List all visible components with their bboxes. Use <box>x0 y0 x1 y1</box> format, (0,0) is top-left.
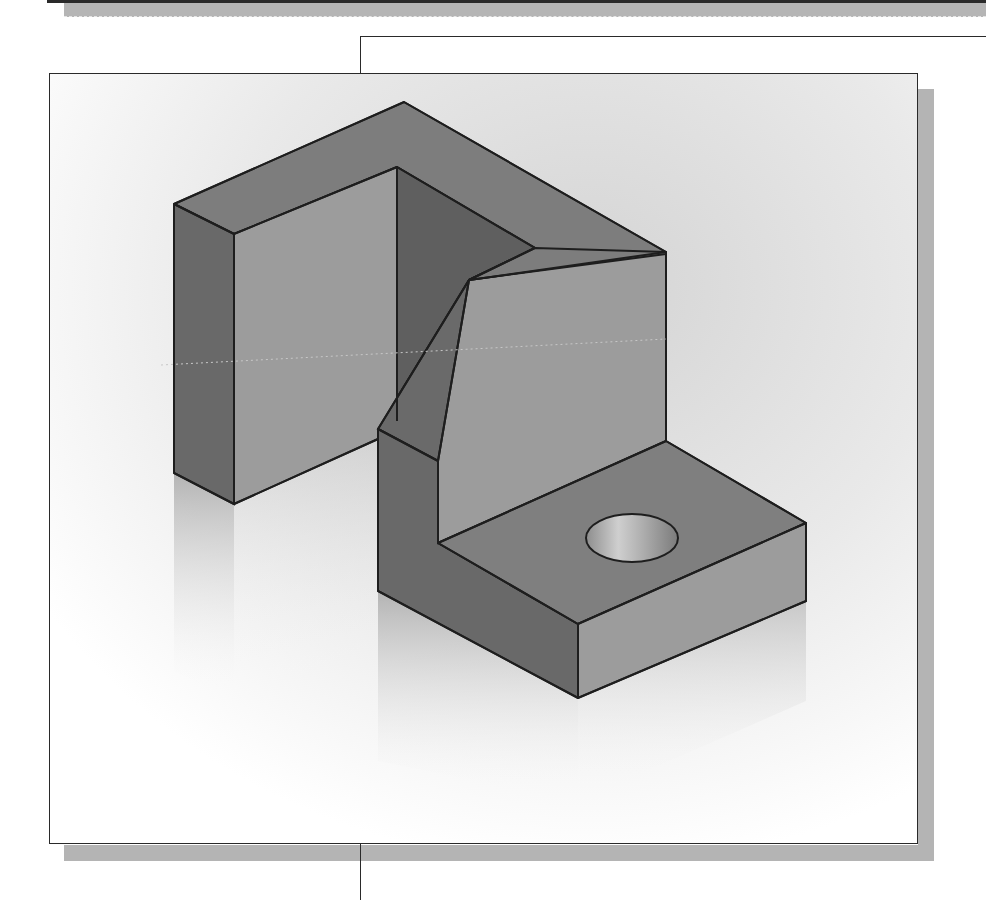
solid-model-illustration <box>49 73 918 844</box>
through-hole <box>586 514 678 562</box>
callout-line-vertical-bottom <box>360 843 361 900</box>
figure-drop-shadow-right <box>918 89 934 861</box>
figure-frame <box>49 73 918 844</box>
figure-drop-shadow-bottom <box>64 845 934 861</box>
left-upright-side-face <box>174 204 234 504</box>
callout-line-vertical-top <box>360 36 361 74</box>
page-top-shadow-band <box>64 3 986 17</box>
hole-icon <box>586 514 678 562</box>
callout-line-horizontal <box>360 36 986 37</box>
